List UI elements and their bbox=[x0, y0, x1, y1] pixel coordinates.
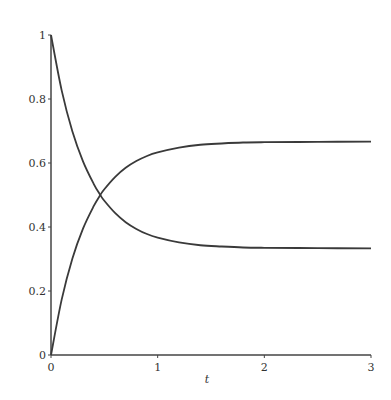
x-tick-label: 1 bbox=[154, 361, 161, 374]
y-tick-label: 0.4 bbox=[29, 221, 47, 234]
y-ticks: 00.20.40.60.81 bbox=[29, 29, 52, 362]
y-tick-label: 0 bbox=[39, 349, 46, 362]
data-series bbox=[51, 35, 371, 355]
x-tick-label: 2 bbox=[261, 361, 268, 374]
x-tick-label: 0 bbox=[48, 361, 55, 374]
x-tick-label: 3 bbox=[368, 361, 375, 374]
line-chart: 0123 00.20.40.60.81 t bbox=[0, 0, 391, 400]
y-tick-label: 0.2 bbox=[29, 285, 47, 298]
x-ticks: 0123 bbox=[48, 355, 375, 374]
y-tick-label: 1 bbox=[39, 29, 46, 42]
y-tick-label: 0.8 bbox=[29, 93, 47, 106]
x-axis-label: t bbox=[205, 373, 210, 386]
axes bbox=[51, 35, 371, 355]
y-tick-label: 0.6 bbox=[29, 157, 47, 170]
